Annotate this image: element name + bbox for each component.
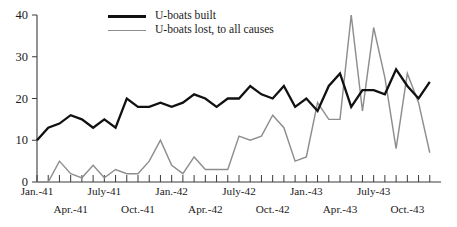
legend-line-swatch-icon: [108, 15, 146, 18]
x-axis-tick-label: Jan.-43: [290, 186, 323, 197]
x-axis-tick-label: Apr.-43: [323, 204, 358, 215]
x-axis-tick-label: Oct.-42: [256, 204, 290, 215]
x-axis-tick-label: July-43: [357, 186, 391, 197]
x-axis-tick-label: Apr.-42: [188, 204, 223, 215]
x-axis-tick-label: July-42: [222, 186, 256, 197]
y-axis-tick-label: 10: [2, 134, 28, 147]
y-axis-tick-label: 20: [2, 93, 28, 106]
legend-item-uboats-built: U-boats built: [108, 9, 348, 23]
y-axis-tick-label: 40: [2, 9, 28, 22]
y-axis-tick-label: 30: [2, 51, 28, 64]
x-axis-tick-label: Jan.-41: [21, 186, 54, 197]
legend-line-swatch-icon: [108, 30, 146, 31]
legend-item-label: U-boats lost, to all causes: [155, 24, 274, 36]
legend-item-uboats-lost: U-boats lost, to all causes: [108, 23, 348, 37]
x-axis-tick-label: Apr.-41: [53, 204, 88, 215]
x-axis-tick-label: Oct.-41: [121, 204, 155, 215]
x-axis-tick-label: July-41: [88, 186, 122, 197]
series-line-uboats-built: [37, 69, 430, 140]
x-axis-tick-label: Jan.-42: [155, 186, 188, 197]
x-axis-tick-label: Oct.-43: [390, 204, 424, 215]
y-axis-ticks: [32, 15, 37, 182]
x-axis-ticks: [37, 175, 430, 182]
chart-container: 010203040 Jan.-41July-41Jan.-42July-42Ja…: [0, 0, 457, 227]
legend-item-label: U-boats built: [155, 10, 216, 22]
chart-legend: U-boats built U-boats lost, to all cause…: [108, 9, 348, 37]
